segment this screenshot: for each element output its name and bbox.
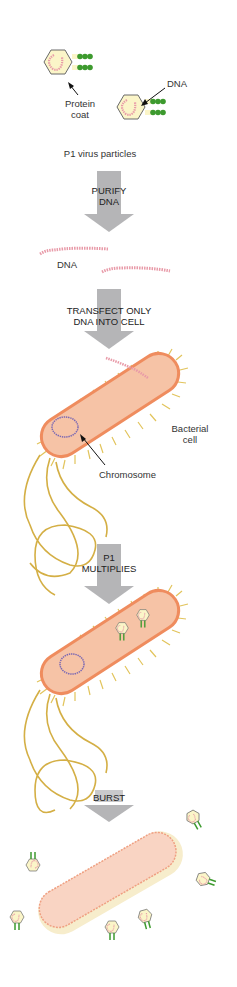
label-bacterial-cell: Bacterial cell bbox=[166, 423, 214, 445]
label-free-dna: DNA bbox=[57, 259, 77, 270]
label-protein-coat-line2: coat bbox=[60, 109, 100, 120]
arrow-label-purify-line1: PURIFY bbox=[79, 185, 139, 196]
arrow-label-multiplies-line2: MULTIPLIES bbox=[69, 563, 149, 574]
label-bacterial-line2: cell bbox=[166, 434, 214, 445]
released-phage bbox=[195, 870, 218, 890]
bacterial-cell-2 bbox=[24, 583, 188, 813]
arrow-label-multiplies-line1: P1 bbox=[69, 552, 149, 563]
arrow-label-transfect-line1: TRANSFECT ONLY bbox=[49, 305, 169, 316]
label-bacterial-line1: Bacterial bbox=[166, 423, 214, 434]
phage-particle-1 bbox=[44, 50, 93, 74]
flagella bbox=[24, 455, 107, 595]
arrow-label-purify-line2: DNA bbox=[79, 196, 139, 207]
pointer-arrow-protein-coat bbox=[68, 82, 78, 95]
arrow-label-burst: BURST bbox=[79, 792, 139, 803]
arrow-label-transfect-line2: DNA INTO CELL bbox=[49, 316, 169, 327]
label-protein-coat: Protein coat bbox=[60, 98, 100, 120]
arrow-label-multiplies: P1 MULTIPLIES bbox=[69, 552, 149, 574]
released-phage bbox=[10, 911, 24, 930]
caption-p1-virus-particles: P1 virus particles bbox=[50, 148, 150, 159]
released-phage bbox=[26, 852, 40, 871]
label-dna-virus: DNA bbox=[167, 78, 187, 89]
released-phage bbox=[184, 808, 206, 831]
phage-particle-2 bbox=[117, 95, 166, 119]
arrow-label-purify: PURIFY DNA bbox=[79, 185, 139, 207]
arrow-label-transfect: TRANSFECT ONLY DNA INTO CELL bbox=[49, 305, 169, 327]
label-chromosome: Chromosome bbox=[99, 469, 156, 480]
released-phage bbox=[105, 921, 119, 940]
phage-tail-1 bbox=[72, 54, 93, 71]
label-protein-coat-line1: Protein bbox=[60, 98, 100, 109]
released-phage bbox=[137, 908, 155, 930]
